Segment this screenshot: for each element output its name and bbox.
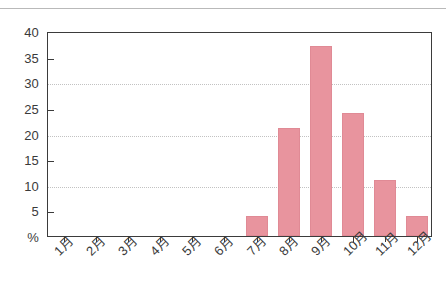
y-axis-tick-label: %: [27, 230, 39, 245]
bar: [310, 46, 332, 236]
y-axis-tick-label: 5: [32, 204, 39, 219]
bar: [374, 180, 396, 236]
y-axis-tick-label: 30: [24, 76, 39, 91]
y-axis-tick-label: 25: [24, 101, 39, 116]
plot-area: [47, 32, 432, 237]
bar: [278, 128, 300, 236]
x-axis-labels: 1月2月3月4月5月6月7月8月9月10月11月12月: [47, 240, 432, 297]
bars-group: [48, 33, 431, 236]
y-axis-labels: 403530252015105%: [0, 0, 47, 297]
y-axis-tick-label: 10: [24, 178, 39, 193]
y-axis-tick-label: 40: [24, 25, 39, 40]
bar: [342, 113, 364, 236]
y-axis-tick-label: 15: [24, 153, 39, 168]
page-divider-rule: [0, 8, 446, 9]
bar-chart-figure: 403530252015105% 1月2月3月4月5月6月7月8月9月10月11…: [0, 0, 446, 297]
y-axis-tick-label: 35: [24, 50, 39, 65]
y-axis-tick-label: 20: [24, 127, 39, 142]
